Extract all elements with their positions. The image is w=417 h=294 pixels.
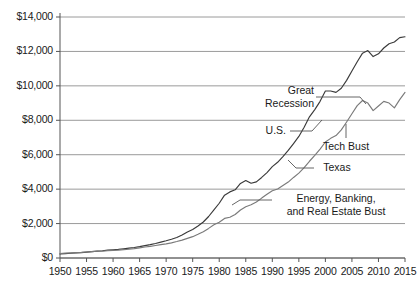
x-axis-ticks xyxy=(60,258,405,262)
gridlines xyxy=(60,17,405,258)
x-axis-label: 2015 xyxy=(389,265,417,277)
y-axis-label: $2,000 xyxy=(22,217,53,229)
annotation-texas-label: Texas xyxy=(316,161,358,174)
annotation-energy-bust: Energy, Banking,and Real Estate Bust xyxy=(274,192,398,217)
leader-line-us-label xyxy=(312,120,322,131)
y-axis-label: $14,000 xyxy=(16,10,53,22)
y-axis-label: $8,000 xyxy=(22,113,53,125)
annotation-line: Tech Bust xyxy=(318,140,374,153)
annotation-line: U.S. xyxy=(246,124,286,137)
annotation-line: Texas xyxy=(316,161,358,174)
leader-line-texas-label xyxy=(288,160,296,168)
annotation-line: Recession xyxy=(248,97,314,110)
annotation-line: and Real Estate Bust xyxy=(274,205,398,218)
y-axis-ticks xyxy=(56,17,60,258)
y-axis-label: $6,000 xyxy=(22,148,53,160)
chart-container: $0$2,000$4,000$6,000$8,000$10,000$12,000… xyxy=(0,0,417,294)
axis-lines xyxy=(60,13,405,258)
annotation-us-label: U.S. xyxy=(246,124,286,137)
y-axis-label: $12,000 xyxy=(16,44,53,56)
annotation-great-recession: GreatRecession xyxy=(248,84,314,109)
annotation-tech-bust: Tech Bust xyxy=(318,140,374,153)
y-axis-label: $0 xyxy=(42,251,53,263)
y-axis-label: $4,000 xyxy=(22,182,53,194)
leader-line-energy-bust xyxy=(232,200,240,205)
y-axis-label: $10,000 xyxy=(16,79,53,91)
annotation-line: Great xyxy=(248,84,314,97)
leader-line-great-recession xyxy=(360,97,366,104)
annotation-line: Energy, Banking, xyxy=(274,192,398,205)
